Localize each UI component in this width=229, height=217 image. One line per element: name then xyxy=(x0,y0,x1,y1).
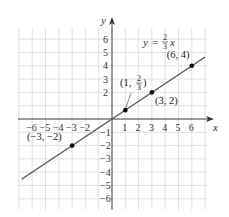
y-tick-label: 4 xyxy=(103,60,108,71)
y-tick-label: −1 xyxy=(100,127,111,138)
x-tick-label: 4 xyxy=(162,122,167,133)
equation-numerator: 2 xyxy=(163,33,167,42)
x-axis-label: x xyxy=(212,121,218,133)
x-tick-label: −2 xyxy=(79,122,90,133)
data-point xyxy=(190,64,195,69)
function-line xyxy=(22,57,206,179)
equation-equals: = xyxy=(152,36,158,48)
point-label: (3, 2) xyxy=(155,95,178,107)
x-tick-label: 5 xyxy=(176,122,181,133)
y-tick-label: −3 xyxy=(100,153,111,164)
point-label: (1, xyxy=(120,77,131,89)
point-label-numerator: 2 xyxy=(137,74,141,83)
data-point xyxy=(150,90,155,95)
y-tick-label: 2 xyxy=(103,87,108,98)
x-tick-label: 6 xyxy=(189,122,194,133)
point-label: (6, 4) xyxy=(167,49,190,61)
coordinate-plane: x y −6−5−4−3−2123456 65432−1−2−3−4−5−6 (… xyxy=(0,0,229,217)
x-tick-label: −3 xyxy=(66,122,77,133)
point-label-denominator: 3 xyxy=(137,83,141,92)
equation-var: x xyxy=(169,36,175,48)
x-tick-label: 3 xyxy=(149,122,154,133)
point-label: ) xyxy=(143,77,147,89)
x-tick-label: 1 xyxy=(122,122,127,133)
y-tick-label: −2 xyxy=(100,140,111,151)
y-tick-label: 5 xyxy=(103,47,108,58)
data-point xyxy=(70,143,75,148)
data-point xyxy=(123,108,128,113)
y-tick-label: 6 xyxy=(103,34,108,45)
y-tick-label: 3 xyxy=(103,74,108,85)
y-tick-label: −6 xyxy=(100,193,111,204)
equation-denominator: 3 xyxy=(163,42,167,51)
y-tick-label: −4 xyxy=(100,167,111,178)
x-tick-label: 2 xyxy=(136,122,141,133)
y-tick-label: −5 xyxy=(100,180,111,191)
y-axis-label: y xyxy=(100,14,106,26)
point-label: (−3, −2) xyxy=(27,131,62,143)
equation-lhs: y xyxy=(142,36,148,48)
